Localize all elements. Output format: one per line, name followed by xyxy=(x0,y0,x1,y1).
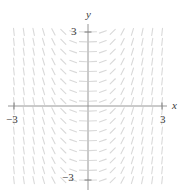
slope-segment xyxy=(33,48,34,55)
slope-segment xyxy=(61,89,66,94)
slope-segment xyxy=(121,48,124,54)
slope-segment xyxy=(131,157,133,164)
slope-segment xyxy=(131,28,133,35)
slope-segment xyxy=(52,98,55,104)
slope-segment xyxy=(70,41,77,43)
slope-segment xyxy=(162,177,163,184)
slope-segment xyxy=(162,127,163,134)
slope-segment xyxy=(52,177,55,183)
slope-segment xyxy=(99,70,106,72)
slope-segment xyxy=(70,90,77,92)
slope-segment xyxy=(131,38,133,45)
slope-segment xyxy=(61,49,66,54)
slope-segment xyxy=(121,108,124,114)
slope-segment xyxy=(23,28,24,35)
slope-segment xyxy=(152,38,153,45)
slope-segment xyxy=(110,128,115,133)
slope-segment xyxy=(52,118,55,124)
slope-segment xyxy=(131,88,133,95)
slope-field-canvas xyxy=(0,0,187,195)
slope-segment xyxy=(52,68,55,74)
slope-segment xyxy=(42,167,44,174)
slope-segment xyxy=(142,58,143,65)
slope-segment xyxy=(14,88,15,95)
slope-segment xyxy=(70,80,77,82)
slope-segment xyxy=(121,118,124,124)
slope-segment xyxy=(99,149,106,151)
slope-segment xyxy=(33,177,34,184)
slope-segment xyxy=(99,31,106,33)
slope-segment xyxy=(23,157,24,164)
slope-segment xyxy=(121,177,124,183)
slope-segment xyxy=(121,78,124,84)
slope-segment xyxy=(131,98,133,105)
slope-segment xyxy=(14,78,15,85)
slope-segment xyxy=(110,99,115,104)
slope-segment xyxy=(23,78,24,85)
slope-segment xyxy=(162,68,163,75)
slope-segment xyxy=(142,177,143,184)
slope-segment xyxy=(42,98,44,105)
slope-segment xyxy=(33,167,34,174)
slope-segment xyxy=(152,58,153,65)
slope-segment xyxy=(61,59,66,64)
slope-segment xyxy=(152,78,153,85)
slope-segment xyxy=(152,177,153,184)
slope-segment xyxy=(61,148,66,153)
slope-segment xyxy=(23,147,24,154)
slope-segment xyxy=(33,58,34,65)
slope-segment xyxy=(70,129,77,131)
slope-segment xyxy=(33,127,34,134)
slope-segment xyxy=(23,167,24,174)
slope-segment xyxy=(110,148,115,153)
slope-segment xyxy=(121,127,124,133)
slope-field-figure: y x 3 −3 −3 3 xyxy=(0,0,187,195)
slope-segment xyxy=(152,48,153,55)
slope-segment xyxy=(131,108,133,115)
slope-segment xyxy=(121,137,124,143)
slope-segment xyxy=(14,177,15,184)
slope-segment xyxy=(152,147,153,154)
slope-segment xyxy=(131,117,133,124)
slope-segment xyxy=(70,120,77,122)
slope-segment xyxy=(152,68,153,75)
x-axis-label: x xyxy=(172,100,177,111)
slope-segment xyxy=(110,118,115,123)
slope-segment xyxy=(61,158,66,163)
slope-segment xyxy=(99,120,106,122)
slope-segment xyxy=(110,158,115,163)
slope-segment xyxy=(14,157,15,164)
slope-segment xyxy=(52,39,55,45)
slope-segment xyxy=(99,50,106,52)
slope-segment xyxy=(142,48,143,55)
slope-segment xyxy=(61,108,66,113)
slope-segment xyxy=(131,177,133,184)
slope-segment xyxy=(162,137,163,144)
slope-segment xyxy=(42,137,44,144)
slope-segment xyxy=(131,147,133,154)
slope-segment xyxy=(121,39,124,45)
slope-segment xyxy=(110,89,115,94)
slope-segment xyxy=(61,29,66,34)
slope-segment xyxy=(61,79,66,84)
slope-segment xyxy=(42,157,44,164)
slope-segment xyxy=(162,28,163,35)
slope-segment xyxy=(152,127,153,134)
slope-segment xyxy=(162,157,163,164)
slope-segment xyxy=(33,157,34,164)
slope-segment xyxy=(142,28,143,35)
slope-segment xyxy=(42,117,44,124)
slope-segment xyxy=(142,167,143,174)
slope-segment xyxy=(152,28,153,35)
slope-segment xyxy=(121,29,124,35)
slope-segment xyxy=(23,58,24,65)
slope-segment xyxy=(14,58,15,65)
slope-segment xyxy=(131,137,133,144)
slope-segment xyxy=(142,98,143,105)
slope-segment xyxy=(14,127,15,134)
slope-segment xyxy=(52,127,55,133)
y-axis-tick-label-negative: −3 xyxy=(62,172,74,183)
slope-segment xyxy=(42,177,44,184)
slope-segment xyxy=(23,38,24,45)
slope-segment xyxy=(142,157,143,164)
